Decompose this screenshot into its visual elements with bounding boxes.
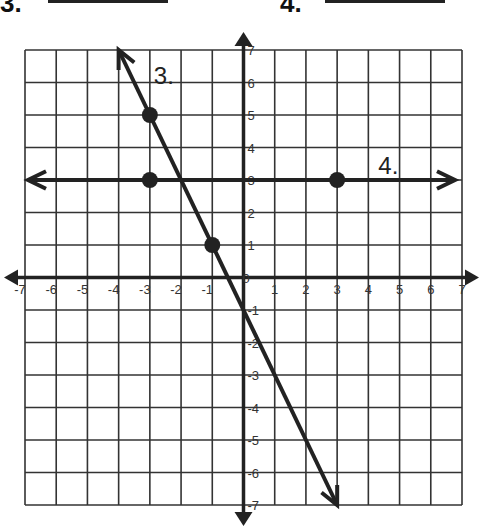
x-tick-label: -6 [45, 282, 57, 297]
origin-label: 0 [243, 271, 250, 286]
x-tick-label: -2 [170, 282, 182, 297]
axes [4, 32, 479, 526]
y-tick-label: -4 [248, 401, 260, 416]
y-tick-label: 4 [248, 141, 255, 156]
x-tick-label: -1 [202, 282, 214, 297]
x-axis-right-arrow-icon [465, 270, 479, 286]
y-tick-label: 1 [248, 238, 255, 253]
x-tick-label: 5 [396, 282, 403, 297]
y-tick-label: -6 [248, 466, 260, 481]
x-tick-label: 2 [302, 282, 309, 297]
line-3-label: 3. [154, 62, 174, 89]
y-tick-label: 7 [248, 43, 255, 58]
x-tick-label: 3 [334, 282, 341, 297]
x-tick-label: 7 [458, 282, 465, 297]
x-tick-label: -7 [14, 282, 26, 297]
coordinate-graph: -7-6-5-4-3-2-112345677654321-1-2-3-4-5-6… [0, 0, 480, 528]
plotted-point [204, 237, 220, 253]
x-tick-label: 1 [271, 282, 278, 297]
y-tick-label: 6 [248, 76, 255, 91]
y-tick-label: 2 [248, 206, 255, 221]
plotted-point [329, 172, 345, 188]
line-4-label: 4. [378, 152, 398, 179]
y-tick-label: -5 [248, 433, 260, 448]
y-tick-label: -7 [248, 498, 260, 513]
plotted-point [142, 172, 158, 188]
y-tick-label: 5 [248, 108, 255, 123]
x-tick-label: 4 [365, 282, 372, 297]
x-tick-label: -3 [139, 282, 151, 297]
x-tick-label: -4 [108, 282, 120, 297]
x-tick-label: -5 [77, 282, 89, 297]
y-tick-label: -3 [248, 368, 260, 383]
y-axis-down-arrow-icon [235, 512, 253, 526]
y-tick-label: -1 [248, 303, 260, 318]
plotted-point [142, 107, 158, 123]
x-tick-label: 6 [427, 282, 434, 297]
